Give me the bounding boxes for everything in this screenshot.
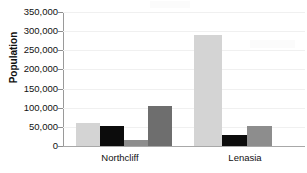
gridline bbox=[63, 108, 305, 109]
bar-lenasia-series-3 bbox=[247, 126, 272, 146]
gridline bbox=[63, 31, 305, 32]
plot-area bbox=[63, 12, 305, 146]
y-axis-tick-mark bbox=[58, 12, 63, 13]
y-axis-tick-label: 0 bbox=[2, 141, 58, 150]
bar-lenasia-series-1 bbox=[194, 35, 222, 146]
y-axis-tick-mark bbox=[58, 146, 63, 147]
gridline bbox=[63, 69, 305, 70]
y-axis-tick-label: 350,000 bbox=[2, 7, 58, 16]
population-bar-chart: Population 350,000300,000250,000200,0001… bbox=[0, 0, 307, 173]
bar-lenasia-series-2 bbox=[222, 135, 247, 146]
y-axis-tick-mark bbox=[58, 69, 63, 70]
scan-artifact bbox=[150, 1, 190, 8]
gridline bbox=[63, 12, 305, 13]
y-axis-tick-label: 100,000 bbox=[2, 103, 58, 112]
x-axis-category-label: Northcliff bbox=[60, 152, 180, 163]
y-axis-tick-mark bbox=[58, 89, 63, 90]
y-axis-tick-mark bbox=[58, 31, 63, 32]
bar-northcliff-series-1 bbox=[76, 123, 100, 146]
gridline bbox=[63, 50, 305, 51]
y-axis-tick-label: 50,000 bbox=[2, 122, 58, 131]
y-axis-tick-labels: 350,000300,000250,000200,000150,000100,0… bbox=[0, 0, 58, 173]
y-axis-tick-label: 200,000 bbox=[2, 64, 58, 73]
y-axis-tick-mark bbox=[58, 108, 63, 109]
y-axis-tick-label: 250,000 bbox=[2, 45, 58, 54]
bar-northcliff-series-2 bbox=[100, 126, 124, 146]
y-axis-tick-label: 150,000 bbox=[2, 84, 58, 93]
y-axis-tick-mark bbox=[58, 127, 63, 128]
bar-northcliff-series-4 bbox=[148, 106, 172, 146]
gridline bbox=[63, 89, 305, 90]
x-axis-category-label: Lenasia bbox=[185, 152, 305, 163]
bar-northcliff-series-3 bbox=[124, 140, 148, 146]
y-axis-tick-label: 300,000 bbox=[2, 26, 58, 35]
axis-baseline bbox=[63, 146, 305, 147]
y-axis-tick-mark bbox=[58, 50, 63, 51]
